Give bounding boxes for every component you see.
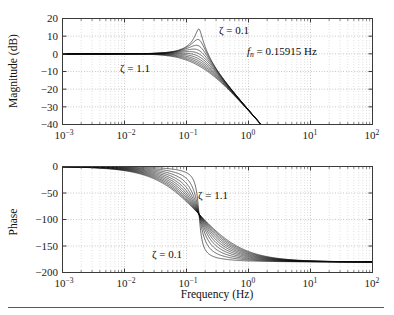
fn-value: = 0.15915 Hz: [254, 45, 317, 57]
zeta-high-annotation: ζ = 1.1: [120, 62, 150, 75]
curve-line: [63, 167, 373, 262]
curve-line: [63, 167, 373, 262]
frequency-axis-title: Frequency (Hz): [181, 288, 254, 301]
bode-plot-figure: 20 10 0 −10 −20 −30 −40 10−310−210−11001…: [0, 0, 394, 315]
curve-line: [63, 167, 373, 262]
curve-line: [63, 167, 373, 262]
xtick-label: 102: [365, 128, 380, 142]
ytick-label: −10: [41, 65, 59, 77]
zeta-high-annotation: ζ = 1.1: [198, 189, 228, 202]
xtick-label: 10−2: [117, 128, 136, 142]
phase-ytick-labels: 0 −50 −100 −150 −200: [35, 160, 58, 278]
magnitude-ytick-labels: 20 10 0 −10 −20 −30 −40: [41, 12, 59, 130]
xtick-label: 100: [241, 128, 256, 142]
ytick-label: −20: [41, 83, 59, 95]
ytick-label: −150: [35, 240, 58, 252]
bode-plot-svg: 20 10 0 −10 −20 −30 −40 10−310−210−11001…: [0, 0, 394, 315]
magnitude-axis-title: Magnitude (dB): [7, 34, 20, 108]
natural-frequency-annotation: fn = 0.15915 Hz: [247, 45, 317, 59]
xtick-label: 10−3: [55, 128, 74, 142]
xtick-label: 10−1: [179, 128, 198, 142]
xtick-label: 101: [303, 276, 318, 290]
xtick-label: 10−3: [55, 276, 74, 290]
curve-line: [63, 167, 373, 262]
ytick-label: 20: [47, 12, 59, 24]
magnitude-panel: 20 10 0 −10 −20 −30 −40 10−310−210−11001…: [7, 12, 380, 141]
phase-xtick-labels: 10−310−210−1100101102: [55, 276, 380, 290]
xtick-label: 10−1: [179, 276, 198, 290]
curve-line: [63, 167, 373, 262]
bottom-divider: [8, 307, 384, 308]
curve-line: [63, 167, 373, 262]
phase-grid: [63, 167, 373, 273]
curve-line: [63, 39, 261, 124]
xtick-label: 100: [241, 276, 256, 290]
curve-line: [63, 167, 373, 262]
curve-line: [63, 167, 373, 262]
phase-axis-title: Phase: [7, 209, 19, 236]
phase-panel: 0 −50 −100 −150 −200 10−310−210−11001011…: [7, 160, 380, 301]
ytick-label: 0: [53, 160, 59, 172]
ytick-label: −30: [41, 101, 59, 113]
xtick-label: 101: [303, 128, 318, 142]
curve-line: [63, 167, 373, 262]
curve-line: [63, 45, 261, 124]
ytick-label: −100: [35, 213, 58, 225]
curve-line: [63, 167, 373, 262]
zeta-low-annotation: ζ = 0.1: [219, 24, 249, 37]
curve-line: [63, 49, 261, 124]
ytick-label: 0: [53, 48, 59, 60]
xtick-label: 10−2: [117, 276, 136, 290]
ytick-label: −50: [41, 187, 59, 199]
ytick-label: 10: [47, 30, 59, 42]
xtick-label: 102: [365, 276, 380, 290]
zeta-low-annotation: ζ = 0.1: [152, 248, 182, 261]
magnitude-xtick-labels: 10−310−210−1100101102: [55, 128, 380, 142]
phase-curves: [63, 167, 373, 262]
